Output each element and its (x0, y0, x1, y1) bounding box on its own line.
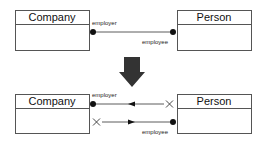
top-employer-dot-icon (90, 29, 96, 35)
top-employer-role: employer (92, 20, 117, 26)
bottom-person-class: Person (178, 95, 252, 134)
top-person-label: Person (197, 11, 232, 23)
right-arrowhead-icon (128, 120, 135, 125)
employer-dot-icon (90, 101, 96, 107)
employee-dot-icon (170, 119, 176, 125)
bottom-company-label: Company (28, 95, 76, 107)
employee-x-icon (93, 119, 100, 126)
top-person-class: Person (178, 11, 252, 51)
bottom-diagram: Company Person employe (16, 92, 252, 135)
bottom-employee-role: employee (142, 129, 169, 135)
bottom-employer-role: employer (92, 92, 117, 98)
left-arrowhead-icon (128, 102, 135, 107)
employer-x-icon (166, 101, 173, 108)
employer-association (90, 101, 173, 108)
down-arrow-icon (119, 57, 145, 87)
bottom-person-label: Person (197, 95, 232, 107)
top-company-class: Company (16, 11, 90, 51)
top-company-label: Company (28, 11, 76, 23)
top-employee-dot-icon (170, 29, 176, 35)
employee-association (93, 119, 176, 126)
top-employee-role: employee (142, 39, 169, 45)
bottom-company-class: Company (16, 95, 90, 134)
diagram-canvas: Company Person employer employee Company… (0, 0, 264, 144)
top-diagram: Company Person employer employee (16, 11, 252, 51)
